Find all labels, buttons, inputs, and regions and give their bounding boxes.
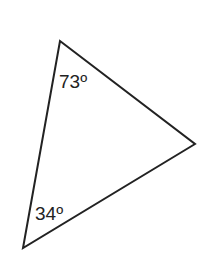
triangle-diagram: 73º 34º	[0, 0, 201, 268]
angle-label-bottom-left: 34º	[35, 203, 63, 224]
angle-label-top: 73º	[59, 71, 87, 92]
triangle-figure: 73º 34º	[0, 0, 201, 268]
